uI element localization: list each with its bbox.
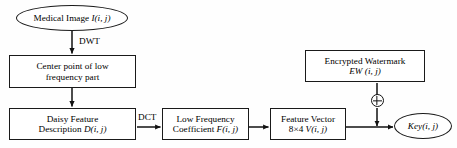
daisy-feature-line2-pre: Description: [39, 124, 84, 134]
edge-label-dct: DCT: [138, 112, 156, 122]
flowchart-diagram: Medical Image I(i, j) DWT Center point o…: [0, 0, 457, 148]
node-key-output: Key(i, j): [394, 113, 452, 139]
medical-image-math: I(i, j): [91, 13, 110, 23]
encrypted-watermark-line1: Encrypted Watermark: [325, 56, 406, 66]
center-point-line1: Center point of low: [36, 61, 108, 71]
daisy-feature-math: D(i, j): [84, 124, 107, 134]
daisy-feature-line1: Daisy Feature: [47, 114, 99, 124]
node-encrypted-watermark: Encrypted Watermark EW (i, j): [305, 50, 425, 82]
xor-operator-icon: [371, 94, 384, 107]
feature-vector-math: V(i, j): [306, 124, 328, 134]
feature-vector-line1: Feature Vector: [281, 114, 335, 124]
edge-label-dwt: DWT: [79, 36, 100, 46]
node-center-point: Center point of low frequency part: [9, 55, 136, 88]
medical-image-label: Medical Image: [34, 13, 92, 23]
encrypted-watermark-math: EW (i, j): [349, 66, 381, 76]
feature-vector-line2-pre: 8×4: [289, 124, 306, 134]
low-freq-math: F(i, j): [217, 124, 239, 134]
node-low-frequency-coefficient: Low Frequency Coefficient F(i, j): [162, 108, 249, 140]
low-freq-line1: Low Frequency: [176, 114, 234, 124]
key-output-math: Key(i, j): [408, 121, 438, 131]
center-point-line2: frequency part: [46, 72, 100, 82]
node-daisy-feature: Daisy Feature Description D(i, j): [9, 108, 136, 140]
node-feature-vector: Feature Vector 8×4 V(i, j): [270, 108, 346, 140]
node-medical-image: Medical Image I(i, j): [16, 5, 128, 31]
low-freq-line2-pre: Coefficient: [173, 124, 217, 134]
